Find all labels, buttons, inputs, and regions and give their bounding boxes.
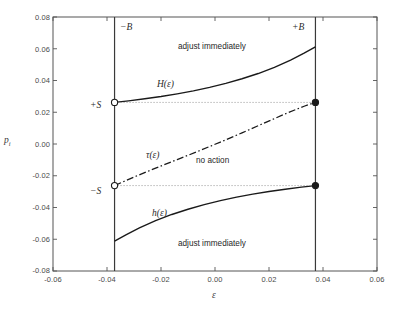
region-label-no-action: no action [196, 156, 229, 165]
x-tick-label-0.06: 0.06 [360, 275, 394, 284]
y-tick-label--0.06: -0.06 [18, 235, 50, 244]
y-axis-label: pi [4, 135, 11, 147]
y-tick-label--0.04: -0.04 [18, 203, 50, 212]
curve-label-tau: τ(ε) [146, 150, 159, 160]
data-marker-filled [312, 182, 318, 188]
curve-lower-h [115, 186, 316, 242]
data-marker-filled [312, 99, 318, 105]
chart-figure: 0.08 0.06 0.04 0.02 0.00 -0.02 -0.04 -0.… [0, 0, 400, 316]
threshold-label-plus-s: +S [90, 100, 101, 110]
y-tick-label-0.04: 0.04 [20, 76, 50, 85]
y-tick-label-0.02: 0.02 [20, 108, 50, 117]
data-marker-open [111, 182, 117, 188]
curve-label-lower-h: h(ε) [152, 208, 167, 218]
data-marker-open [111, 99, 117, 105]
y-axis-label-subscript: i [9, 140, 11, 147]
curve-upper-h [115, 47, 316, 103]
x-axis-label: ε [212, 290, 216, 300]
y-tick-label-0.08: 0.08 [20, 13, 50, 22]
y-tick-label-0.00: 0.00 [20, 140, 50, 149]
x-tick-label-0.00: 0.00 [198, 275, 232, 284]
region-label-adjust-top: adjust immediately [178, 42, 246, 51]
boundary-label-plus-b: +B [292, 22, 304, 32]
boundary-label-minus-b: −B [120, 22, 132, 32]
curve-label-upper-h: H(ε) [157, 79, 174, 89]
y-tick-label--0.08: -0.08 [18, 266, 50, 275]
y-tick-label-0.06: 0.06 [20, 45, 50, 54]
x-tick-label-0.04: 0.04 [306, 275, 340, 284]
x-tick-label--0.04: -0.04 [90, 275, 124, 284]
threshold-label-minus-s: −S [90, 186, 101, 196]
x-tick-label--0.06: -0.06 [36, 275, 70, 284]
x-tick-label--0.02: -0.02 [144, 275, 178, 284]
curve-tau [115, 102, 316, 185]
region-label-adjust-bottom: adjust immediately [178, 239, 246, 248]
y-tick-label--0.02: -0.02 [18, 171, 50, 180]
x-tick-label-0.02: 0.02 [252, 275, 286, 284]
